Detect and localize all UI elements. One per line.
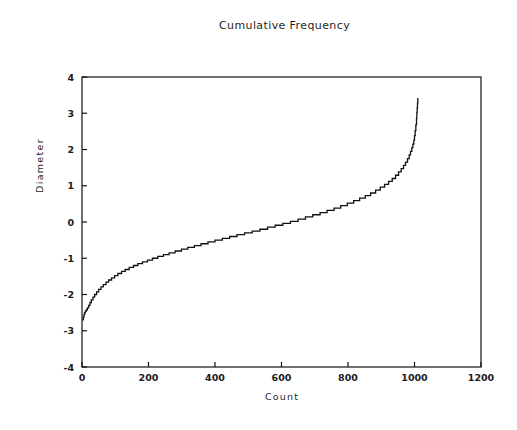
- x-tick-label: 600: [272, 372, 292, 383]
- x-tick-label: 200: [139, 372, 159, 383]
- x-ticks-group: 020040060080010001200: [79, 362, 495, 383]
- data-series-line: [83, 98, 418, 320]
- y-tick-label: -1: [63, 253, 74, 264]
- y-tick-label: 0: [67, 217, 74, 228]
- axes-box: [82, 77, 481, 367]
- y-tick-label: 2: [67, 144, 74, 155]
- y-tick-label: -4: [63, 362, 74, 373]
- y-tick-label: -2: [63, 289, 74, 300]
- x-tick-label: 1000: [401, 372, 428, 383]
- y-tick-label: 1: [67, 180, 74, 191]
- chart-figure: Cumulative Frequency Diameter Count 0200…: [0, 0, 517, 430]
- y-tick-label: 4: [67, 72, 74, 83]
- y-tick-label: -3: [63, 325, 74, 336]
- y-tick-label: 3: [67, 108, 74, 119]
- plot-area: 020040060080010001200 -4-3-2-101234: [0, 0, 517, 430]
- x-tick-label: 0: [79, 372, 86, 383]
- x-tick-label: 800: [338, 372, 358, 383]
- y-ticks-group: -4-3-2-101234: [63, 72, 87, 373]
- x-tick-label: 400: [205, 372, 225, 383]
- data-series-group: [83, 98, 418, 320]
- axes-frame: [82, 77, 481, 367]
- x-tick-label: 1200: [468, 372, 495, 383]
